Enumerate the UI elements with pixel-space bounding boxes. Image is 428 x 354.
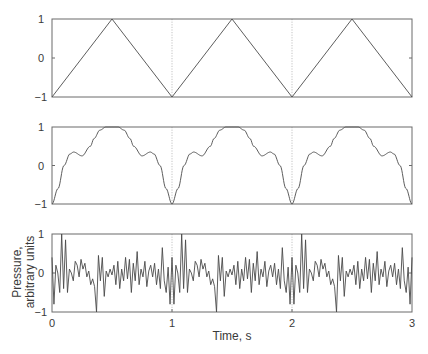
ytick-label: −1 xyxy=(34,198,47,210)
xtick-label: 3 xyxy=(409,317,415,329)
y-axis-label-line1: Pressure, xyxy=(10,246,24,297)
xtick-label: 1 xyxy=(169,317,175,329)
ytick-label: 0 xyxy=(38,52,44,64)
panel-bandlimited-wave: 1 0 −1 xyxy=(34,121,412,210)
triangle-wave-line xyxy=(52,19,412,97)
axes-frame xyxy=(52,19,412,97)
panel-noise-wave: 1 0 −1 0 1 2 3 Time, s Pressure, arbitra… xyxy=(10,228,415,343)
ytick-label: 0 xyxy=(38,160,44,172)
ytick-label: −1 xyxy=(34,91,47,103)
panel-triangle-wave: 1 0 −1 xyxy=(34,13,412,103)
bandlimited-wave-line xyxy=(52,127,412,204)
xtick-label: 2 xyxy=(289,317,295,329)
figure: 1 0 −1 1 0 −1 1 0 −1 0 1 2 3 Time, s Pre… xyxy=(0,0,428,354)
noise-wave-line xyxy=(52,234,412,312)
ytick-label: 1 xyxy=(38,121,44,133)
ytick-label: 1 xyxy=(38,228,44,240)
axes-frame xyxy=(52,127,412,204)
x-axis-label: Time, s xyxy=(213,329,252,343)
ytick-label: 0 xyxy=(38,267,44,279)
ytick-label: 1 xyxy=(38,13,44,25)
y-axis-label: Pressure, arbitrary units xyxy=(10,236,37,309)
y-axis-label-line2: arbitrary units xyxy=(23,236,37,309)
xtick-label: 0 xyxy=(49,317,55,329)
